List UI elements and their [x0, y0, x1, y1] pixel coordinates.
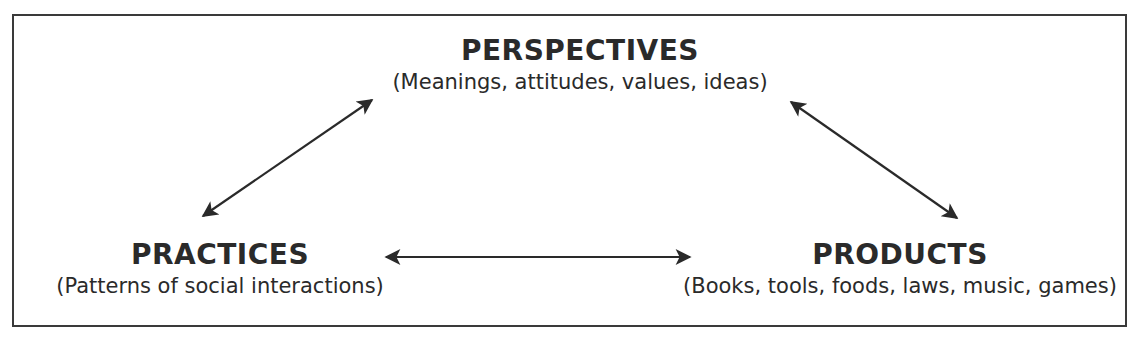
node-title: PRODUCTS — [680, 238, 1120, 272]
node-practices: PRACTICES (Patterns of social interactio… — [40, 238, 400, 300]
node-title: PERSPECTIVES — [380, 34, 780, 68]
node-perspectives: PERSPECTIVES (Meanings, attitudes, value… — [380, 34, 780, 96]
node-title: PRACTICES — [40, 238, 400, 272]
node-subtitle: (Books, tools, foods, laws, music, games… — [680, 272, 1120, 300]
node-subtitle: (Meanings, attitudes, values, ideas) — [380, 68, 780, 96]
node-products: PRODUCTS (Books, tools, foods, laws, mus… — [680, 238, 1120, 300]
arrow-perspectives-products — [791, 102, 957, 218]
arrow-practices-perspectives — [203, 100, 372, 216]
node-subtitle: (Patterns of social interactions) — [40, 272, 400, 300]
